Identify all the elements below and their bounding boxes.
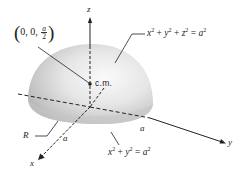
center-of-mass-label: c.m. xyxy=(95,79,112,88)
radius-x-label: a xyxy=(63,134,68,143)
a-over-2-fraction: a2 xyxy=(41,25,47,41)
y-axis-outer xyxy=(150,118,222,142)
eq-exp: 2 xyxy=(147,146,150,152)
radius-y-label: a xyxy=(140,124,145,133)
region-leader-line xyxy=(35,121,58,136)
region-label: R xyxy=(23,131,29,140)
eq-op: = xyxy=(133,147,143,157)
x-axis-label: x xyxy=(30,159,34,168)
eq-op: + xyxy=(154,28,164,38)
close-paren: ) xyxy=(48,22,54,43)
y-axis-label: y xyxy=(228,138,232,147)
sphere-equation-label: x2 + y2 + z2 = a2 xyxy=(147,29,206,39)
z-axis-label: z xyxy=(87,5,91,14)
centroid-coords: 0, 0, xyxy=(20,26,38,37)
fraction-denominator: 2 xyxy=(42,33,46,41)
x-axis-arrowhead xyxy=(38,154,45,161)
eq-op: + xyxy=(172,28,182,38)
z-axis-arrowhead xyxy=(88,17,92,23)
eq-op: + xyxy=(115,147,125,157)
y-axis-arrowhead xyxy=(220,139,227,144)
centroid-point-label: (0, 0, a2) xyxy=(14,23,54,42)
eq-exp: 2 xyxy=(203,27,206,33)
base-equation-label: x2 + y2 = a2 xyxy=(108,148,150,158)
base-eq-leader-line xyxy=(111,132,119,145)
eq-op: = xyxy=(188,28,198,38)
